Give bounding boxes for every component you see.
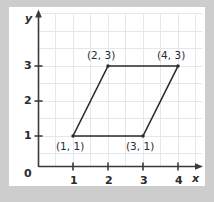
plot-card: y x 0 1 2 3 1 2 3 4 (2, 3) (4, 3) (1, 1)… — [9, 7, 205, 186]
x-tick-label-2: 2 — [105, 175, 113, 186]
x-tick-label-3: 3 — [140, 175, 148, 186]
vertex-marker-2-3 — [106, 64, 109, 67]
vertex-label-2-3: (2, 3) — [87, 50, 115, 61]
origin-label: 0 — [24, 168, 32, 179]
figure-container: y x 0 1 2 3 1 2 3 4 (2, 3) (4, 3) (1, 1)… — [0, 0, 214, 202]
y-tick-label-1: 1 — [24, 130, 32, 141]
y-axis-label: y — [25, 13, 32, 24]
coordinate-plane-svg — [9, 7, 205, 186]
y-tick-label-2: 2 — [24, 95, 32, 106]
vertex-marker-3-1 — [141, 134, 144, 137]
vertex-label-3-1: (3, 1) — [126, 141, 154, 152]
vertex-marker-1-1 — [71, 134, 74, 137]
vertex-label-1-1: (1, 1) — [56, 141, 84, 152]
x-tick-label-1: 1 — [70, 175, 78, 186]
vertex-label-4-3: (4, 3) — [157, 50, 185, 61]
y-tick-label-3: 3 — [24, 60, 32, 71]
vertex-marker-4-3 — [176, 64, 179, 67]
x-axis-label: x — [192, 173, 199, 184]
x-tick-label-4: 4 — [175, 175, 183, 186]
y-axis — [35, 10, 42, 168]
